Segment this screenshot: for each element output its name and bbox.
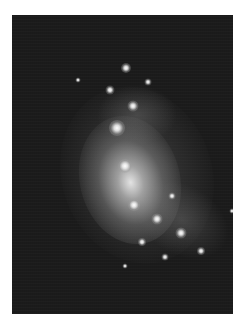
star: [121, 63, 131, 73]
bright-knot-upper: [109, 120, 125, 136]
star: [128, 199, 140, 211]
galaxy-photo: [12, 15, 233, 314]
star: [138, 238, 146, 246]
star: [76, 78, 81, 83]
star: [162, 254, 169, 261]
star: [176, 228, 187, 239]
star: [197, 247, 205, 255]
star: [106, 86, 115, 95]
star: [169, 193, 176, 200]
star: [230, 209, 234, 214]
galaxy-nucleus: [118, 159, 132, 173]
star: [145, 79, 152, 86]
star: [152, 214, 163, 225]
star: [128, 101, 139, 112]
star: [123, 264, 128, 269]
